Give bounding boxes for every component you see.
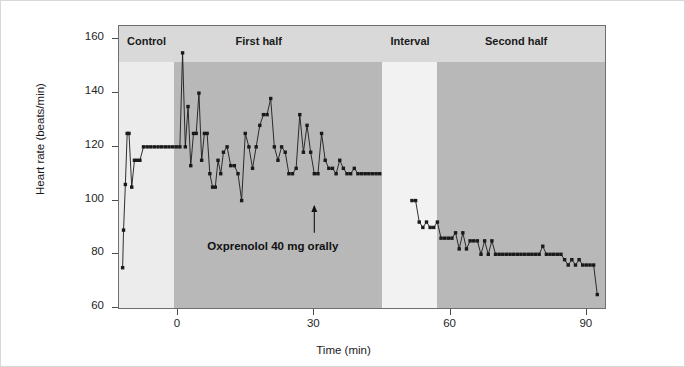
data-point-marker	[508, 253, 511, 256]
data-point-marker	[439, 236, 442, 239]
data-point-marker	[338, 159, 341, 162]
data-point-marker	[189, 164, 192, 167]
data-point-marker	[309, 151, 312, 154]
data-point-marker	[512, 253, 515, 256]
x-tick-mark	[586, 309, 587, 315]
data-point-marker	[425, 220, 428, 223]
data-point-marker	[167, 145, 170, 148]
data-point-marker	[195, 132, 198, 135]
data-point-marker	[588, 263, 591, 266]
data-point-marker	[171, 145, 174, 148]
y-tick-mark	[112, 253, 118, 254]
data-point-marker	[574, 263, 577, 266]
data-point-marker	[122, 228, 125, 231]
data-point-marker	[556, 253, 559, 256]
data-point-marker	[421, 226, 424, 229]
data-point-marker	[465, 247, 468, 250]
data-point-marker	[254, 145, 257, 148]
data-point-marker	[519, 253, 522, 256]
data-point-marker	[374, 172, 377, 175]
y-tick-mark	[112, 38, 118, 39]
data-point-marker	[353, 167, 356, 170]
data-point-marker	[121, 266, 124, 269]
data-point-marker	[534, 253, 537, 256]
x-tick-label: 0	[162, 317, 192, 329]
y-tick-label: 60	[74, 299, 104, 311]
data-point-marker	[461, 231, 464, 234]
data-point-marker	[327, 167, 330, 170]
data-point-marker	[164, 145, 167, 148]
y-axis-label: Heart rate (beats/min)	[34, 44, 46, 234]
data-point-marker	[294, 167, 297, 170]
x-tick-mark	[177, 309, 178, 315]
data-point-marker	[472, 239, 475, 242]
data-point-marker	[476, 239, 479, 242]
data-point-marker	[197, 91, 200, 94]
data-point-marker	[410, 199, 413, 202]
y-tick-mark	[112, 307, 118, 308]
data-point-marker	[244, 132, 247, 135]
series-polyline	[412, 201, 597, 295]
x-tick-label: 90	[571, 317, 601, 329]
data-point-marker	[570, 258, 573, 261]
y-tick-mark	[112, 146, 118, 147]
data-point-marker	[305, 124, 308, 127]
data-point-marker	[181, 51, 184, 54]
data-point-marker	[454, 231, 457, 234]
annotation-arrow	[311, 205, 317, 233]
data-point-marker	[345, 172, 348, 175]
data-point-marker	[313, 172, 316, 175]
data-point-marker	[287, 172, 290, 175]
data-point-marker	[545, 253, 548, 256]
data-point-marker	[596, 293, 599, 296]
data-point-marker	[153, 145, 156, 148]
data-point-marker	[468, 239, 471, 242]
data-point-marker	[127, 132, 130, 135]
data-point-marker	[251, 167, 254, 170]
y-tick-label: 120	[74, 138, 104, 150]
data-point-marker	[487, 253, 490, 256]
data-point-marker	[418, 220, 421, 223]
heart-rate-line-chart	[119, 26, 605, 308]
data-point-marker	[178, 145, 181, 148]
data-point-marker	[516, 253, 519, 256]
data-point-marker	[450, 236, 453, 239]
y-tick-label: 140	[74, 84, 104, 96]
data-point-marker	[436, 220, 439, 223]
data-point-marker	[577, 258, 580, 261]
data-point-marker	[479, 253, 482, 256]
data-point-marker	[216, 159, 219, 162]
data-point-marker	[581, 263, 584, 266]
data-point-marker	[548, 253, 551, 256]
y-tick-mark	[112, 200, 118, 201]
data-point-marker	[273, 145, 276, 148]
data-point-marker	[124, 183, 127, 186]
data-point-marker	[240, 199, 243, 202]
y-tick-label: 80	[74, 245, 104, 257]
y-tick-label: 100	[74, 192, 104, 204]
data-point-marker	[497, 253, 500, 256]
data-point-marker	[214, 185, 217, 188]
data-point-marker	[284, 151, 287, 154]
plot-area: ControlFirst halfIntervalSecond half	[118, 25, 606, 309]
data-point-marker	[458, 247, 461, 250]
data-point-marker	[276, 159, 279, 162]
data-point-marker	[320, 132, 323, 135]
data-point-marker	[291, 172, 294, 175]
data-point-marker	[208, 172, 211, 175]
x-tick-mark	[313, 309, 314, 315]
data-point-marker	[356, 172, 359, 175]
data-point-marker	[302, 151, 305, 154]
data-point-marker	[145, 145, 148, 148]
data-point-marker	[371, 172, 374, 175]
data-point-marker	[483, 239, 486, 242]
data-point-marker	[229, 164, 232, 167]
data-point-marker	[559, 253, 562, 256]
data-point-marker	[265, 113, 268, 116]
data-point-marker	[331, 167, 334, 170]
drug-annotation-label: Oxprenolol 40 mg orally	[207, 240, 338, 252]
data-point-marker	[541, 245, 544, 248]
data-point-marker	[247, 145, 250, 148]
series-heart-rate	[121, 51, 599, 296]
data-point-marker	[494, 253, 497, 256]
